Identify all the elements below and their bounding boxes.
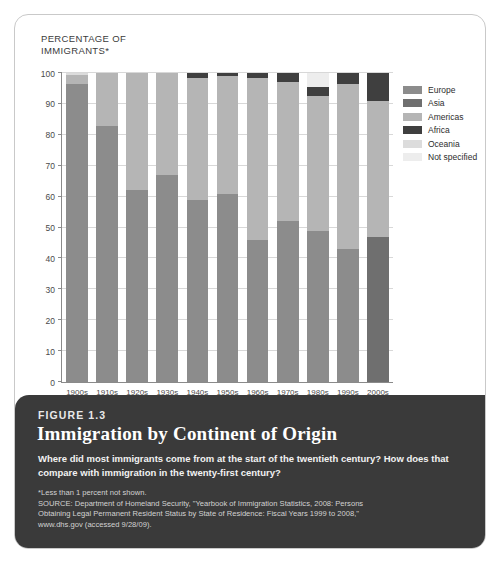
bar-segment-europe [307, 231, 329, 382]
y-tick-label: 10 [46, 347, 55, 357]
bar-segment-americas [217, 76, 239, 193]
source-footnote: *Less than 1 percent not shown. [38, 488, 463, 499]
legend-label: Africa [428, 125, 450, 135]
bar-segment-americas [307, 96, 329, 230]
y-tick-label: 30 [46, 285, 55, 295]
bar-column: 1960s [247, 73, 269, 382]
bar-segment-europe [217, 194, 239, 382]
bar-column: 1920s [126, 73, 148, 382]
y-tick-label: 70 [46, 161, 55, 171]
figure-title: Immigration by Continent of Origin [37, 423, 337, 445]
bar-segment-europe [96, 126, 118, 382]
legend-swatch-icon [403, 99, 422, 107]
source-line-1: SOURCE: Department of Homeland Security,… [38, 499, 463, 510]
bar-segment-europe [66, 84, 88, 382]
figure-number: FIGURE 1.3 [38, 409, 106, 421]
y-axis-title: PERCENTAGE OF IMMIGRANTS* [41, 33, 126, 57]
figure-card: PERCENTAGE OF IMMIGRANTS* 01020304050607… [14, 14, 486, 549]
figure-question: Where did most immigrants come from at t… [38, 452, 458, 479]
bar-segment-europe [126, 190, 148, 382]
bar-segment-not-specified [307, 73, 329, 87]
bar-segment-americas [156, 73, 178, 175]
bar-segment-africa [187, 73, 209, 78]
legend-swatch-icon [403, 113, 422, 121]
y-tick-label: 90 [46, 99, 55, 109]
legend-swatch-icon [403, 140, 422, 148]
legend-swatch-icon [403, 86, 422, 94]
caption-block: FIGURE 1.3 Immigration by Continent of O… [15, 395, 486, 548]
bar-segment-europe [337, 249, 359, 382]
bar-segment-asia [367, 237, 389, 382]
bar-column: 1970s [277, 73, 299, 382]
bar-segment-americas [247, 78, 269, 240]
legend-label: Oceania [428, 139, 460, 149]
bar-column: 1930s [156, 73, 178, 382]
y-tick-label: 40 [46, 254, 55, 264]
legend-item-asia: Asia [403, 97, 477, 111]
plot-area: 0102030405060708090100 1900s1910s1920s19… [61, 73, 393, 383]
y-tick-label: 100 [41, 69, 55, 79]
bar-segment-europe [156, 175, 178, 382]
bar-segment-americas [367, 101, 389, 237]
legend-item-africa: Africa [403, 124, 477, 138]
bar-column: 1950s [217, 73, 239, 382]
bar-segment-africa [337, 73, 359, 84]
legend-item-oceania: Oceania [403, 137, 477, 151]
bar-segment-oceania [66, 73, 88, 75]
chart-legend: EuropeAsiaAmericasAfricaOceaniaNot speci… [403, 83, 477, 164]
legend-label: Americas [428, 112, 463, 122]
source-line-2: Obtaining Legal Permanent Resident Statu… [38, 509, 463, 520]
bar-segment-europe [247, 240, 269, 382]
bar-segment-americas [277, 82, 299, 221]
y-tick-label: 80 [46, 130, 55, 140]
legend-label: Asia [428, 98, 445, 108]
bar-segment-africa [217, 73, 239, 76]
bar-segment-europe [277, 221, 299, 382]
y-tick-label: 50 [46, 223, 55, 233]
bar-segment-europe [187, 200, 209, 382]
bar-segment-africa [277, 73, 299, 82]
legend-swatch-icon [403, 153, 422, 161]
figure-source-note: *Less than 1 percent not shown. SOURCE: … [38, 488, 463, 530]
bar-segment-africa [307, 87, 329, 96]
bar-segment-americas [96, 73, 118, 126]
legend-label: Not specified [428, 152, 477, 162]
legend-swatch-icon [403, 126, 422, 134]
legend-item-not-specified: Not specified [403, 151, 477, 165]
y-tick-label: 20 [46, 316, 55, 326]
y-tick-label: 0 [50, 378, 55, 388]
bar-column: 1910s [96, 73, 118, 382]
bar-column: 1980s [307, 73, 329, 382]
bar-segment-africa [247, 73, 269, 78]
bar-segment-americas [126, 73, 148, 190]
bar-segment-americas [66, 75, 88, 84]
bar-column: 1990s [337, 73, 359, 382]
source-line-3: www.dhs.gov (accessed 9/28/09). [38, 520, 463, 531]
bar-column: 1900s [66, 73, 88, 382]
bar-segment-africa [367, 73, 389, 101]
chart-region: PERCENTAGE OF IMMIGRANTS* 01020304050607… [15, 15, 486, 397]
bar-column: 2000s [367, 73, 389, 382]
bar-series-group: 1900s1910s1920s1930s1940s1950s1960s1970s… [62, 73, 393, 382]
bar-segment-americas [187, 78, 209, 200]
legend-item-europe: Europe [403, 83, 477, 97]
bar-column: 1940s [187, 73, 209, 382]
y-tick-label: 60 [46, 192, 55, 202]
bar-segment-americas [337, 84, 359, 249]
legend-label: Europe [428, 85, 455, 95]
legend-item-americas: Americas [403, 110, 477, 124]
